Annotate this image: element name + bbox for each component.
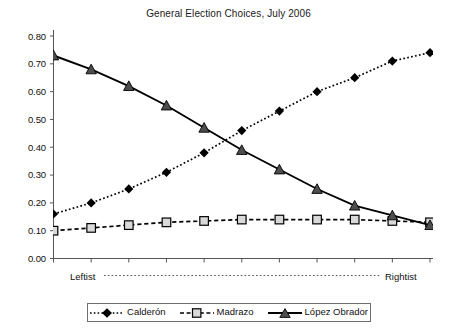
legend-item-lopez-obrador[interactable]: López Obrador [268, 307, 368, 319]
legend-label: Madrazo [217, 307, 254, 318]
data-point-marker [425, 48, 434, 57]
data-point-marker [388, 56, 397, 65]
data-point-marker [237, 145, 247, 155]
x-axis-ticks [54, 259, 431, 263]
data-point-marker [161, 100, 171, 110]
data-point-marker [124, 184, 133, 193]
legend-item-calderon[interactable]: Calderón [90, 307, 166, 319]
series-l-pez-obrador [48, 50, 435, 229]
data-point-marker [313, 215, 322, 224]
data-point-marker [312, 184, 322, 194]
data-point-marker [275, 106, 284, 115]
legend-item-madrazo[interactable]: Madrazo [180, 307, 254, 319]
data-point-marker [274, 164, 284, 174]
data-point-marker [87, 198, 96, 207]
series-madrazo [49, 215, 434, 235]
data-point-marker [199, 123, 209, 133]
data-point-marker [312, 87, 321, 96]
data-point-marker [200, 217, 209, 226]
legend-marker-filled-diamond-icon [90, 307, 124, 319]
data-point-marker [350, 215, 359, 224]
data-point-marker [49, 209, 58, 218]
legend-marker-open-square-icon [180, 307, 214, 319]
data-point-marker [162, 168, 171, 177]
data-point-marker [87, 224, 96, 233]
data-point-marker [350, 200, 360, 210]
data-point-marker [124, 81, 134, 91]
data-point-marker [275, 215, 284, 224]
chart-legend: Calderón Madrazo López Obrador [87, 303, 371, 322]
data-point-marker [48, 50, 58, 60]
data-point-marker [200, 148, 209, 157]
data-point-marker [237, 215, 246, 224]
chart-figure: General Election Choices, July 2006 0.80… [0, 0, 457, 335]
legend-label: López Obrador [305, 307, 368, 318]
legend-marker-filled-triangle-icon [268, 307, 302, 319]
data-point-marker [350, 73, 359, 82]
legend-label: Calderón [127, 307, 166, 318]
series-calder-n [49, 48, 435, 219]
data-point-marker [237, 126, 246, 135]
plot-area [0, 0, 457, 335]
series-layer [48, 48, 435, 235]
y-axis-ticks [50, 36, 54, 259]
data-point-marker [125, 221, 134, 230]
data-point-marker [162, 218, 171, 227]
